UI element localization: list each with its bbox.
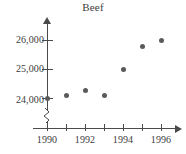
x-axis-label-1990: 1990 (28, 134, 66, 145)
x-tick-1995 (142, 124, 143, 131)
y-axis-label-26000: 26,000 (16, 34, 44, 45)
x-axis-arrow-icon (175, 125, 182, 133)
data-point (83, 88, 88, 93)
y-axis-arrow-icon (43, 17, 51, 24)
x-axis-label-1994: 1994 (104, 134, 142, 145)
x-tick-1993 (104, 124, 105, 131)
x-axis-label-1992: 1992 (66, 134, 104, 145)
x-tick-1991 (66, 124, 67, 131)
data-point (64, 93, 69, 98)
x-tick-1990 (47, 124, 48, 131)
chart-figure: Beef 26,000 25,000 24,000 1990 (0, 0, 186, 154)
data-point (102, 93, 107, 98)
y-axis-label-25000: 25,000 (16, 63, 44, 74)
data-point (140, 44, 145, 49)
plot-area: 26,000 25,000 24,000 1990 1992 1994 1996 (0, 0, 186, 154)
data-point (121, 67, 126, 72)
x-tick-1996 (161, 124, 162, 131)
axis-break-icon (40, 108, 56, 128)
x-axis-label-1996: 1996 (142, 134, 180, 145)
data-point (45, 96, 50, 101)
x-axis-line (33, 128, 178, 129)
x-tick-1992 (85, 124, 86, 131)
data-point (159, 38, 164, 43)
y-axis-label-24000: 24,000 (16, 94, 44, 105)
x-tick-1994 (123, 124, 124, 131)
